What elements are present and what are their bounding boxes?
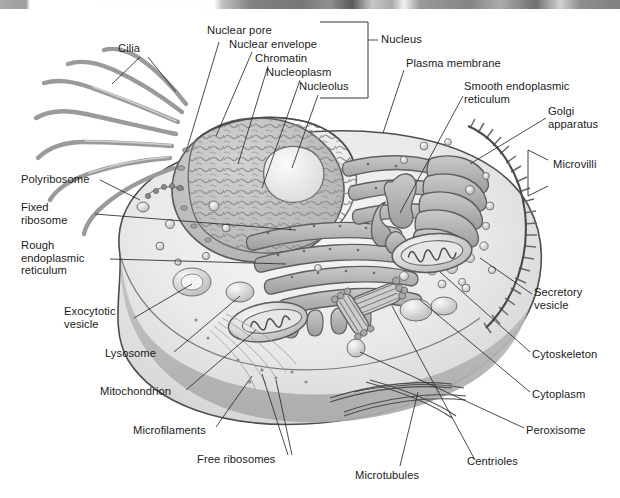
label-lysosome: Lysosome (105, 347, 156, 360)
label-rough-endoplasmic-reticulum: Rough endoplasmic reticulum (21, 239, 84, 277)
label-nuclear-envelope: Nuclear envelope (229, 38, 317, 51)
label-nucleolus: Nucleolus (299, 80, 349, 93)
peroxisome (347, 339, 365, 357)
label-centrioles: Centrioles (467, 455, 518, 468)
label-chromatin: Chromatin (255, 52, 307, 65)
nucleolus (264, 146, 324, 202)
label-smooth-endoplasmic-reticulum: Smooth endoplasmic reticulum (464, 80, 569, 105)
label-nucleoplasm: Nucleoplasm (266, 66, 331, 79)
label-plasma-membrane: Plasma membrane (406, 57, 501, 70)
label-mitochondrion: Mitochondrion (100, 385, 171, 398)
label-exocytotic-vesicle: Exocytotic vesicle (64, 305, 116, 330)
label-peroxisome: Peroxisome (526, 424, 586, 437)
label-polyribosome: Polyribosome (21, 173, 89, 186)
lysosome (226, 282, 254, 302)
label-microvilli: Microvilli (553, 158, 596, 171)
label-cytoskeleton: Cytoskeleton (532, 348, 597, 361)
label-cytoplasm: Cytoplasm (532, 388, 585, 401)
label-golgi-apparatus: Golgi apparatus (548, 105, 598, 130)
label-nuclear-pore: Nuclear pore (207, 24, 272, 37)
label-cilia: Cilia (118, 42, 140, 55)
label-free-ribosomes: Free ribosomes (197, 453, 276, 466)
label-nucleus: Nucleus (381, 33, 422, 46)
label-microfilaments: Microfilaments (133, 424, 206, 437)
vesicle-right (400, 299, 432, 321)
label-fixed-ribosome: Fixed ribosome (21, 201, 67, 226)
cell-diagram-page: Cilia Nuclear pore Nuclear envelope Chro… (0, 0, 620, 498)
label-secretory-vesicle: Secretory vesicle (534, 286, 582, 311)
label-microtubules: Microtubules (355, 469, 419, 482)
